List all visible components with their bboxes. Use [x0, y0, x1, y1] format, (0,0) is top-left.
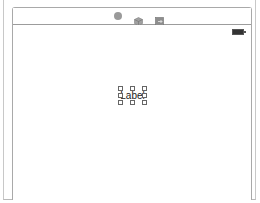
first-responder-icon[interactable]	[134, 12, 142, 20]
resize-handle-top-right[interactable]	[142, 86, 147, 91]
resize-handle-bottom[interactable]	[130, 100, 135, 105]
resize-handle-left[interactable]	[118, 93, 123, 98]
battery-icon	[232, 29, 244, 35]
view-controller-scene[interactable]: Label	[12, 7, 252, 200]
root-view[interactable]: Label	[13, 25, 251, 200]
exit-icon[interactable]	[155, 12, 163, 20]
resize-handle-top[interactable]	[130, 86, 135, 91]
resize-handle-right[interactable]	[142, 93, 147, 98]
resize-handle-bottom-right[interactable]	[142, 100, 147, 105]
resize-handle-bottom-left[interactable]	[118, 100, 123, 105]
resize-handle-top-left[interactable]	[118, 86, 123, 91]
scene-dock	[13, 8, 251, 25]
label-element[interactable]: Label	[120, 89, 145, 103]
view-controller-icon[interactable]	[114, 12, 122, 20]
